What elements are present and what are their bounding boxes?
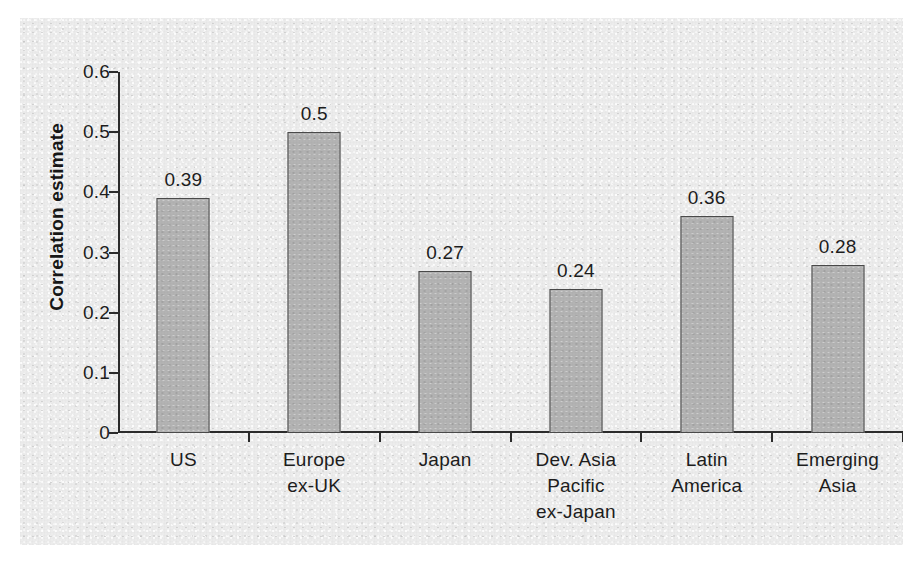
bar[interactable]: [157, 198, 210, 433]
x-tick-mark: [771, 433, 773, 442]
y-tick-mark: [109, 312, 118, 314]
bar-value-label: 0.24: [557, 260, 595, 282]
y-axis-title: Correlation estimate: [46, 123, 68, 311]
x-axis-category-label: Dev. AsiaPacificex-Japan: [536, 447, 617, 525]
y-tick-mark: [109, 71, 118, 73]
y-tick-mark: [109, 131, 118, 133]
bar[interactable]: [680, 216, 733, 433]
y-tick-label: 0.2: [83, 302, 110, 324]
y-tick-mark: [109, 372, 118, 374]
plot-area: 00.10.20.30.40.50.6 0.39US0.5Europeex-UK…: [118, 72, 903, 433]
x-axis-category-label: Japan: [419, 447, 472, 473]
bar[interactable]: [549, 289, 602, 433]
bar-slot: 0.5Europeex-UK: [249, 72, 380, 433]
x-tick-mark: [248, 433, 250, 442]
bar-slot: 0.24Dev. AsiaPacificex-Japan: [511, 72, 642, 433]
figure-panel: Correlation estimate 00.10.20.30.40.50.6…: [20, 18, 903, 545]
bar-value-label: 0.36: [688, 187, 726, 209]
x-tick-mark: [902, 433, 903, 442]
bar-value-label: 0.28: [819, 236, 857, 258]
bar-value-label: 0.5: [301, 103, 328, 125]
y-tick-label: 0.4: [83, 181, 110, 203]
bar-slot: 0.39US: [118, 72, 249, 433]
y-tick-label: 0.6: [83, 61, 110, 83]
y-tick-label: 0.5: [83, 121, 110, 143]
x-tick-mark: [510, 433, 512, 442]
bar[interactable]: [419, 271, 472, 433]
bar-slot: 0.28EmergingAsia: [772, 72, 903, 433]
bar-slot: 0.27Japan: [380, 72, 511, 433]
y-tick-label: 0.3: [83, 242, 110, 264]
bar-value-label: 0.39: [165, 169, 203, 191]
bar[interactable]: [811, 265, 864, 433]
x-axis-category-label: Europeex-UK: [283, 447, 345, 499]
x-tick-mark: [379, 433, 381, 442]
y-tick-label: 0: [99, 422, 110, 444]
y-tick-mark: [109, 191, 118, 193]
bar-value-label: 0.27: [426, 242, 464, 264]
bar[interactable]: [288, 132, 341, 433]
y-tick-mark: [109, 432, 118, 434]
y-tick-label: 0.1: [83, 362, 110, 384]
x-tick-mark: [640, 433, 642, 442]
bar-slot: 0.36LatinAmerica: [641, 72, 772, 433]
y-tick-mark: [109, 252, 118, 254]
x-axis-category-label: US: [170, 447, 197, 473]
x-axis-category-label: EmergingAsia: [796, 447, 879, 499]
x-axis-category-label: LatinAmerica: [671, 447, 742, 499]
